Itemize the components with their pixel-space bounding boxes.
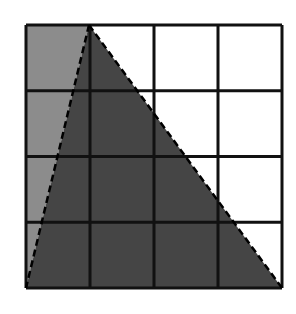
- grid-triangle-diagram: [0, 0, 296, 314]
